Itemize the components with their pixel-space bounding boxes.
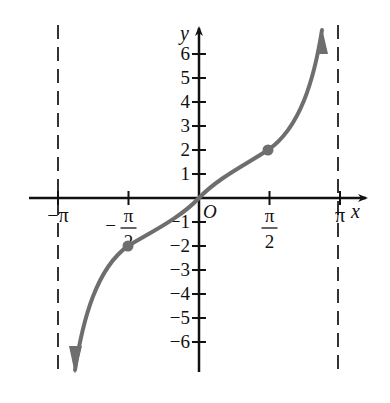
point-neg-pi-over-2 bbox=[123, 241, 134, 252]
x-tick-label-num: π bbox=[124, 205, 134, 226]
x-tick-label-den: 2 bbox=[265, 231, 275, 252]
y-tick-label: −6 bbox=[170, 331, 190, 352]
curve-arrow-down-icon bbox=[69, 346, 82, 374]
y-tick-label: 5 bbox=[181, 67, 191, 88]
y-tick-label: −2 bbox=[170, 235, 190, 256]
y-tick-label: 2 bbox=[181, 139, 191, 160]
x-tick-label-sign: − bbox=[105, 215, 116, 236]
x-tick-label: −π bbox=[47, 204, 68, 226]
origin-label: O bbox=[203, 201, 217, 222]
y-tick-label: 1 bbox=[181, 163, 191, 184]
y-tick-label: −4 bbox=[170, 283, 191, 304]
point-pi-over-2 bbox=[263, 145, 274, 156]
y-tick-label: 4 bbox=[181, 91, 191, 112]
x-tick-label-num: π bbox=[265, 205, 275, 226]
y-tick-label: −3 bbox=[170, 259, 190, 280]
chart-root: −ππ2−π2π 654321−1−2−3−4−5−6 x y O bbox=[0, 0, 390, 403]
y-axis-label: y bbox=[178, 22, 189, 45]
x-tick-label: π bbox=[335, 204, 345, 226]
y-tick-label: 6 bbox=[181, 43, 191, 64]
y-tick-label: 3 bbox=[181, 115, 191, 136]
y-tick-label: −5 bbox=[170, 307, 190, 328]
curve-arrow-up-icon bbox=[316, 28, 328, 54]
tangent-graph: −ππ2−π2π 654321−1−2−3−4−5−6 x y O bbox=[0, 0, 390, 403]
x-axis-label: x bbox=[350, 200, 360, 222]
